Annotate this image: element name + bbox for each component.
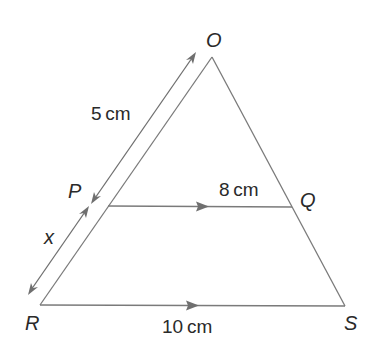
arrowhead-P-bottom-icon: [79, 206, 89, 218]
vertex-label-P: P: [68, 180, 82, 202]
vertex-label-S: S: [344, 312, 358, 334]
measurement-OP: 5 cm: [91, 103, 131, 124]
triangle-diagram: O P Q R S 5 cm 8 cm 10 cm x: [0, 0, 381, 358]
vertex-label-R: R: [25, 312, 39, 334]
dimension-line-OP: [93, 58, 192, 201]
vertex-label-O: O: [206, 29, 222, 51]
measurement-PR: x: [43, 226, 55, 248]
vertex-label-Q: Q: [300, 189, 316, 211]
measurement-RS: 10 cm: [162, 316, 212, 337]
arrowhead-P-top-icon: [91, 192, 101, 204]
edge-OR: [40, 57, 212, 305]
arrowhead-O-icon: [186, 52, 196, 64]
measurement-PQ: 8 cm: [219, 179, 259, 200]
arrowhead-R-icon: [28, 283, 38, 295]
